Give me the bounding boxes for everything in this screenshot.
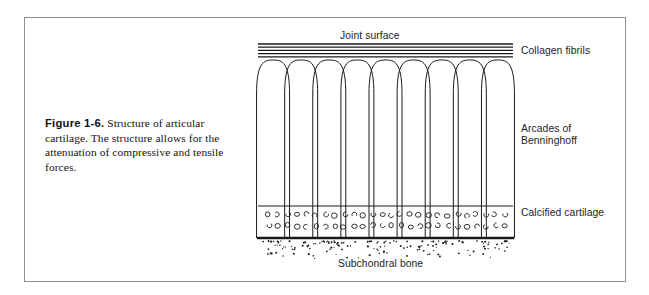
chondrocyte-lacuna xyxy=(380,213,385,217)
bone-stipple-dot xyxy=(419,249,421,251)
bone-stipple-dot xyxy=(347,245,349,247)
bone-stipple-dot xyxy=(270,241,272,243)
bone-stipple-dot xyxy=(377,250,378,251)
chondrocyte-lacuna xyxy=(267,224,272,228)
bone-stipple-dot xyxy=(275,252,277,254)
bone-stipple-dot xyxy=(283,246,284,247)
bone-stipple-dot xyxy=(308,253,310,255)
chondrocyte-lacuna xyxy=(397,212,402,217)
chondrocyte-lacuna xyxy=(464,224,470,229)
bone-stipple-dot xyxy=(280,240,281,241)
bone-stipple-dot xyxy=(293,248,295,250)
bone-stipple-dot xyxy=(369,254,371,256)
bone-stipple-dot xyxy=(270,252,272,254)
bone-stipple-dot xyxy=(418,246,420,248)
chondrocyte-lacuna xyxy=(473,212,478,217)
bone-stipple-dot xyxy=(487,248,488,249)
bone-stipple-dot xyxy=(334,241,336,243)
chondrocyte-lacuna xyxy=(360,213,365,218)
bone-stipple-dot xyxy=(473,251,475,253)
figure-number: Figure 1-6. xyxy=(45,117,104,129)
bone-stipple-dot xyxy=(341,242,343,244)
bone-stipple-dot xyxy=(384,245,385,246)
bone-stipple-dot xyxy=(445,243,446,244)
bone-stipple-dot xyxy=(484,248,486,250)
chondrocyte-lacuna xyxy=(275,224,280,229)
bone-stipple-dot xyxy=(302,245,304,247)
bone-stipple-dot xyxy=(274,245,275,246)
bone-stipple-dot xyxy=(446,240,448,242)
bone-stipple-dot xyxy=(508,242,509,243)
chondrocyte-lacuna xyxy=(502,224,507,228)
bone-stipple-dot xyxy=(431,241,432,242)
chondrocyte-lacuna xyxy=(483,225,488,230)
bone-stipple-dot xyxy=(504,240,506,242)
bone-stipple-dot xyxy=(289,240,291,242)
bone-stipple-dot xyxy=(376,242,377,243)
bone-stipple-dot xyxy=(433,250,434,251)
bone-stipple-dot xyxy=(439,256,441,258)
bone-stipple-dot xyxy=(337,242,339,244)
bone-stipple-dot xyxy=(326,250,328,252)
bone-stipple-dot xyxy=(304,241,306,243)
bone-stipple-dot xyxy=(406,255,408,257)
bone-stipple-dot xyxy=(410,245,412,247)
chondrocyte-lacuna xyxy=(435,223,440,228)
bone-stipple-dot xyxy=(338,245,340,247)
bone-stipple-dot xyxy=(389,242,391,244)
bone-stipple-dot xyxy=(268,248,270,250)
bone-stipple-dot xyxy=(445,240,446,241)
bone-stipple-dot xyxy=(293,253,295,255)
bone-stipple-dot xyxy=(490,257,491,258)
bone-stipple-dot xyxy=(504,250,506,252)
bone-stipple-dot xyxy=(427,254,429,256)
bone-stipple-dot xyxy=(341,248,343,250)
bone-stipple-dot xyxy=(498,248,500,250)
chondrocyte-lacuna xyxy=(360,224,365,228)
bone-stipple-dot xyxy=(294,247,296,249)
bone-stipple-dot xyxy=(291,246,292,247)
chondrocyte-lacuna xyxy=(275,212,279,217)
chondrocyte-lacuna xyxy=(475,224,480,229)
bone-stipple-dot xyxy=(406,241,408,243)
chondrocyte-lacuna xyxy=(492,212,497,217)
chondrocyte-lacuna xyxy=(389,213,394,218)
chondrocyte-lacuna xyxy=(465,213,470,218)
bone-stipple-dot xyxy=(267,253,269,255)
bone-stipple-dot xyxy=(501,242,503,244)
bone-stipple-dot xyxy=(336,254,337,255)
collagen-fibril-band xyxy=(258,44,513,57)
bone-stipple-dot xyxy=(376,249,378,251)
bone-stipple-dot xyxy=(417,249,419,251)
bone-stipple-dot xyxy=(379,253,381,255)
bone-stipple-dot xyxy=(506,247,508,249)
bone-stipple-dot xyxy=(483,243,484,244)
chondrocyte-lacuna xyxy=(333,224,337,229)
bone-stipple-dot xyxy=(436,247,437,248)
bone-stipple-dot xyxy=(396,241,398,243)
label-collagen-fibrils: Collagen fibrils xyxy=(521,45,590,57)
bone-stipple-dot xyxy=(282,255,284,257)
bone-stipple-dot xyxy=(282,248,283,249)
bone-stipple-dot xyxy=(437,254,439,256)
bone-stipple-dot xyxy=(370,240,372,242)
bone-stipple-dot xyxy=(435,244,437,246)
bone-stipple-dot xyxy=(487,243,489,245)
bone-stipple-dot xyxy=(350,245,351,246)
figure-caption: Figure 1-6. Structure of articular carti… xyxy=(45,116,235,174)
bone-stipple-dot xyxy=(458,252,460,254)
bone-stipple-dot xyxy=(385,241,386,242)
bone-stipple-dot xyxy=(451,243,453,245)
bone-stipple-dot xyxy=(377,241,379,243)
bone-stipple-dot xyxy=(400,245,402,247)
chondrocyte-lacuna xyxy=(304,212,309,217)
bone-stipple-dot xyxy=(386,252,387,253)
bone-stipple-dot xyxy=(346,257,348,259)
bone-stipple-dot xyxy=(469,255,470,256)
bone-stipple-dot xyxy=(328,242,330,244)
bone-stipple-dot xyxy=(494,247,496,249)
chondrocyte-lacuna xyxy=(435,213,440,218)
bone-stipple-dot xyxy=(354,241,356,243)
bone-stipple-dot xyxy=(328,241,329,242)
bone-stipple-dot xyxy=(262,241,264,243)
